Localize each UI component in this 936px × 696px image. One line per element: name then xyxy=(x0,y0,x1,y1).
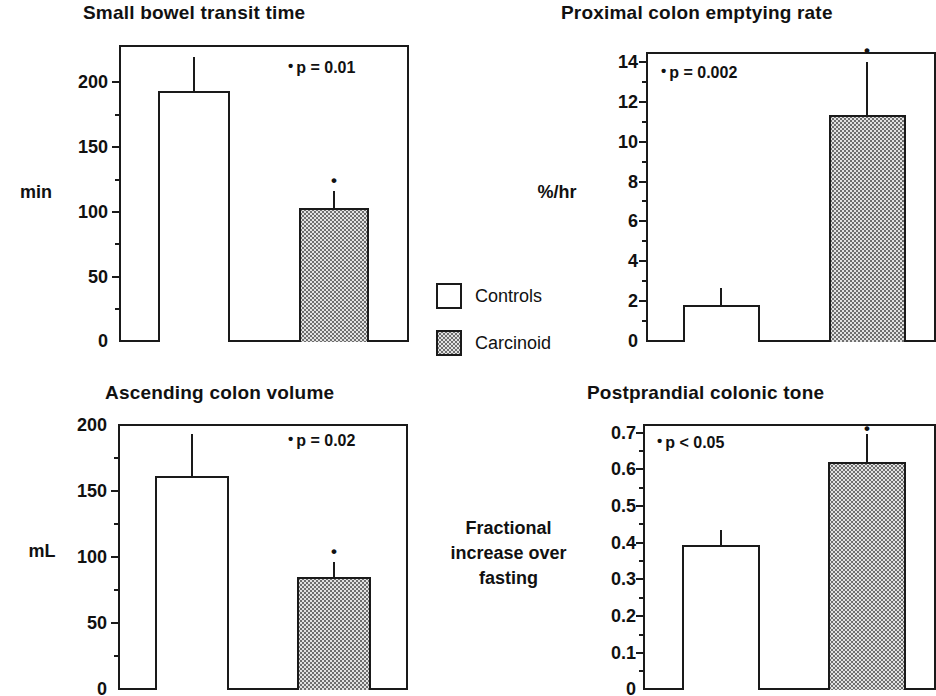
ytick-label-2-0: 0 xyxy=(592,331,638,352)
ytick-mark-2-2 xyxy=(639,300,648,302)
ytick-label-4-0.1: 0.1 xyxy=(578,643,636,664)
ytick-mark-3-100 xyxy=(111,556,120,558)
errorbar-3-carcinoid xyxy=(333,562,335,578)
panel-title-postprandial-colonic-tone: Postprandial colonic tone xyxy=(587,382,824,404)
ytick-label-1-0: 0 xyxy=(46,331,108,352)
ytick-minor-3-125 xyxy=(114,523,119,525)
bar-4-controls xyxy=(682,545,760,690)
ytick-mark-2-14 xyxy=(639,61,648,63)
pvalue-marker-1: • xyxy=(288,57,293,74)
significance-star-2-carcinoid: • xyxy=(864,42,870,59)
pvalue-marker-2: • xyxy=(661,62,666,79)
ytick-minor-4-0.35 xyxy=(639,560,644,562)
errorbar-2-carcinoid xyxy=(866,62,868,116)
ytick-minor-3-175 xyxy=(114,457,119,459)
y-axis-unit-fractional-increase-over-fasting: Fractional increase over fasting xyxy=(421,516,596,591)
pvalue-annotation-3: •p = 0.02 xyxy=(288,430,355,450)
ytick-label-4-0.4: 0.4 xyxy=(578,533,636,554)
ytick-minor-1-25 xyxy=(115,308,120,310)
errorbar-3-controls xyxy=(191,434,193,477)
ytick-label-1-200: 200 xyxy=(46,72,108,93)
legend-label-carcinoid: Carcinoid xyxy=(475,333,551,354)
ytick-mark-1-150 xyxy=(112,146,121,148)
ytick-mark-4-0.3 xyxy=(636,578,645,580)
pvalue-text-2: p = 0.002 xyxy=(669,64,737,81)
ytick-minor-2-13 xyxy=(642,81,647,83)
bar-3-carcinoid xyxy=(297,577,371,690)
ytick-mark-4-0.1 xyxy=(636,652,645,654)
ytick-label-3-100: 100 xyxy=(45,547,107,568)
panel-title-ascending-colon-volume: Ascending colon volume xyxy=(105,382,334,404)
bar-2-carcinoid xyxy=(829,115,906,342)
ytick-minor-3-25 xyxy=(114,655,119,657)
ytick-mark-4-0.2 xyxy=(636,615,645,617)
ytick-label-4-0.5: 0.5 xyxy=(578,496,636,517)
bar-1-controls xyxy=(158,91,230,342)
ytick-label-4-0.3: 0.3 xyxy=(578,569,636,590)
legend-item-carcinoid: Carcinoid xyxy=(436,330,551,356)
pvalue-text-3: p = 0.02 xyxy=(296,432,355,449)
pvalue-text-4: p < 0.05 xyxy=(665,434,724,451)
panel-title-small-bowel-transit-time: Small bowel transit time xyxy=(83,2,305,24)
ytick-mark-4-0.7 xyxy=(636,432,645,434)
bar-4-carcinoid xyxy=(828,462,906,690)
ytick-label-4-0.6: 0.6 xyxy=(578,459,636,480)
ytick-mark-2-8 xyxy=(639,181,648,183)
ytick-label-2-14: 14 xyxy=(592,52,638,73)
four-panel-bar-figure: Small bowel transit time min 0 50 100 15… xyxy=(0,0,936,696)
ytick-label-2-6: 6 xyxy=(592,211,638,232)
pvalue-text-1: p = 0.01 xyxy=(296,59,355,76)
legend-label-controls: Controls xyxy=(475,286,542,307)
pvalue-marker-4: • xyxy=(657,432,662,449)
pvalue-annotation-1: •p = 0.01 xyxy=(288,57,355,77)
ytick-mark-4-0.5 xyxy=(636,505,645,507)
ytick-mark-3-150 xyxy=(111,490,120,492)
ytick-minor-4-0.45 xyxy=(639,523,644,525)
ytick-mark-1-200 xyxy=(112,81,121,83)
bar-1-carcinoid xyxy=(299,208,369,342)
ytick-minor-1-125 xyxy=(115,179,120,181)
bar-3-controls xyxy=(155,476,229,690)
significance-star-1-carcinoid: • xyxy=(331,172,337,189)
bar-2-controls xyxy=(683,305,760,342)
ytick-label-2-2: 2 xyxy=(592,291,638,312)
ytick-label-2-12: 12 xyxy=(592,92,638,113)
pvalue-marker-3: • xyxy=(288,430,293,447)
ytick-minor-3-75 xyxy=(114,589,119,591)
y-axis-unit-line-2: increase over xyxy=(421,541,596,566)
legend-swatch-controls-icon xyxy=(436,283,462,309)
ytick-mark-1-100 xyxy=(112,211,121,213)
ytick-minor-4-0.55 xyxy=(639,487,644,489)
legend-item-controls: Controls xyxy=(436,283,542,309)
y-axis-unit-min: min xyxy=(6,182,66,203)
ytick-mark-2-6 xyxy=(639,220,648,222)
ytick-mark-4-0.4 xyxy=(636,542,645,544)
errorbar-1-controls xyxy=(193,57,195,92)
ytick-label-3-150: 150 xyxy=(45,481,107,502)
ytick-minor-1-75 xyxy=(115,243,120,245)
legend-swatch-carcinoid-icon xyxy=(436,330,462,356)
ytick-minor-4-0.05 xyxy=(639,670,644,672)
ytick-mark-2-12 xyxy=(639,101,648,103)
ytick-mark-4-0.6 xyxy=(636,468,645,470)
ytick-label-1-100: 100 xyxy=(46,202,108,223)
ytick-minor-2-9 xyxy=(642,161,647,163)
ytick-label-3-50: 50 xyxy=(45,613,107,634)
ytick-minor-2-7 xyxy=(642,200,647,202)
panel-title-proximal-colon-emptying-rate: Proximal colon emptying rate xyxy=(561,2,833,24)
significance-star-3-carcinoid: • xyxy=(331,543,337,560)
ytick-label-2-10: 10 xyxy=(592,132,638,153)
ytick-label-4-0.2: 0.2 xyxy=(578,606,636,627)
y-axis-unit-line-1: Fractional xyxy=(421,516,596,541)
ytick-label-3-0: 0 xyxy=(45,679,107,696)
errorbar-1-carcinoid xyxy=(333,191,335,209)
ytick-mark-2-10 xyxy=(639,141,648,143)
errorbar-4-controls xyxy=(720,530,722,546)
y-axis-unit-percent-hr: %/hr xyxy=(517,182,597,203)
pvalue-annotation-4: •p < 0.05 xyxy=(657,432,724,452)
ytick-minor-1-175 xyxy=(115,114,120,116)
ytick-label-4-0.7: 0.7 xyxy=(578,423,636,444)
ytick-minor-4-0.65 xyxy=(639,450,644,452)
ytick-label-2-4: 4 xyxy=(592,251,638,272)
ytick-minor-4-0.25 xyxy=(639,597,644,599)
